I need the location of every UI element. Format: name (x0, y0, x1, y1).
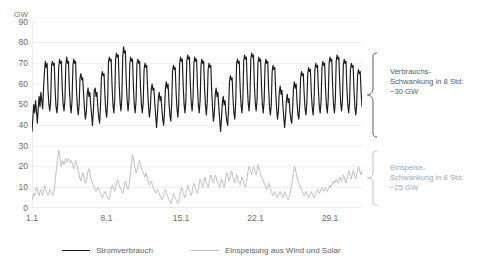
y-axis-tick-20: 20 (10, 161, 28, 171)
y-axis-tick-70: 70 (10, 58, 28, 68)
legend-item-einspeisung: Einspeisung aus Wind und Solar (191, 246, 341, 255)
legend-swatch-einspeisung (191, 250, 219, 251)
y-axis-tick-80: 80 (10, 37, 28, 47)
x-axis-tick-1-1: 1.1 (17, 213, 47, 223)
y-axis-tick-10: 10 (10, 182, 28, 192)
series-line-stromverbrauch (32, 47, 362, 132)
consumption-swing-line-2: Schwankung in 8 Std: (390, 77, 463, 87)
feedin-swing-line-1: Einspeise- (390, 163, 463, 173)
consumption-swing-line-1: Verbrauchs- (390, 67, 463, 77)
plot-area (32, 22, 362, 208)
brace-consumption (366, 52, 382, 138)
chart-canvas: GW 9080706050403020100 1.18.115.122.129.… (0, 0, 484, 264)
brace-feedin (366, 150, 382, 206)
y-axis-tick-50: 50 (10, 99, 28, 109)
x-axis-tick-15-1: 15.1 (166, 213, 196, 223)
annotation-consumption-swing: Verbrauchs-Schwankung in 8 Std:~30 GW (390, 67, 463, 98)
x-axis-tick-8-1: 8.1 (92, 213, 122, 223)
feedin-swing-line-3: ~25 GW (390, 183, 463, 193)
x-axis-tick-29-1: 29.1 (315, 213, 345, 223)
x-axis-tick-22-1: 22.1 (241, 213, 271, 223)
y-axis-tick-90: 90 (10, 17, 28, 27)
y-axis-tick-0: 0 (10, 203, 28, 213)
legend-label-einspeisung: Einspeisung aus Wind und Solar (225, 246, 341, 255)
y-axis-tick-40: 40 (10, 120, 28, 130)
annotation-feedin-swing: Einspeise-Schwankung in 8 Std:~25 GW (390, 163, 463, 194)
chart-legend: Stromverbrauch Einspeisung aus Wind und … (0, 240, 484, 260)
y-axis-tick-30: 30 (10, 141, 28, 151)
consumption-swing-line-3: ~30 GW (390, 87, 463, 97)
feedin-swing-line-2: Schwankung in 8 Std: (390, 173, 463, 183)
legend-item-stromverbrauch: Stromverbrauch (62, 246, 153, 255)
legend-label-stromverbrauch: Stromverbrauch (96, 246, 153, 255)
y-axis-tick-60: 60 (10, 79, 28, 89)
series-line-einspeisung (32, 150, 362, 204)
legend-swatch-stromverbrauch (62, 250, 90, 251)
